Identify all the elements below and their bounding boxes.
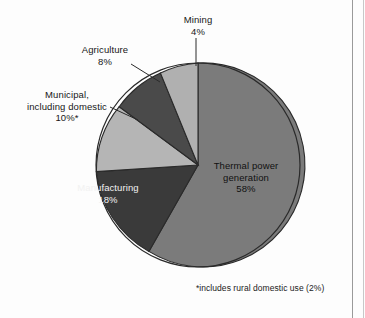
slice-label-manufacturing-name: Manufacturing bbox=[77, 182, 139, 193]
slice-label-municipal-line1: Municipal, bbox=[45, 89, 89, 100]
chart-footnote: *includes rural domestic use (2%) bbox=[196, 283, 324, 293]
slice-label-manufacturing: Manufacturing 18% bbox=[60, 182, 156, 205]
slice-label-agriculture: Agriculture 8% bbox=[62, 44, 148, 67]
pie-chart bbox=[0, 0, 365, 318]
slice-label-municipal-value: 10%* bbox=[6, 112, 128, 124]
slice-label-manufacturing-value: 18% bbox=[60, 194, 156, 206]
slice-label-mining: Mining 4% bbox=[168, 14, 228, 37]
slice-label-thermal-line2: generation bbox=[196, 172, 296, 184]
chart-page: Mining 4% Agriculture 8% Municipal, incl… bbox=[0, 0, 365, 318]
slice-label-thermal-power-generation: Thermal power generation 58% bbox=[196, 160, 296, 195]
slice-label-mining-name: Mining bbox=[184, 14, 213, 25]
slice-label-municipal: Municipal, including domestic 10%* bbox=[6, 89, 128, 124]
slice-label-thermal-value: 58% bbox=[196, 183, 296, 195]
slice-label-agriculture-name: Agriculture bbox=[82, 44, 129, 55]
slice-label-mining-value: 4% bbox=[168, 26, 228, 38]
slice-label-municipal-line2: including domestic bbox=[6, 101, 128, 113]
slice-label-thermal-line1: Thermal power bbox=[214, 160, 279, 171]
slice-label-agriculture-value: 8% bbox=[62, 56, 148, 68]
